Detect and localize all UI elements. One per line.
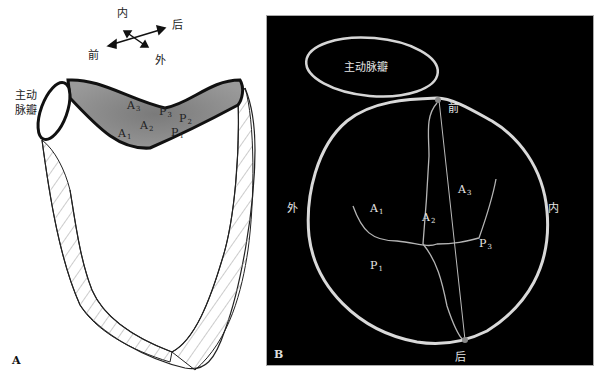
segment-a1-label: A1 <box>118 128 131 141</box>
segment-p3-label: P3 <box>159 106 172 119</box>
orientation-inner-label: 内 <box>548 203 559 214</box>
aortic-valve-label-line1: 主动 <box>15 90 37 101</box>
aortic-valve-label: 主动脉瓣 <box>344 62 388 73</box>
aortic-valve-ring <box>32 78 77 143</box>
orientation-posterior-label: 后 <box>172 20 183 31</box>
segment-a2-label: A2 <box>140 120 153 133</box>
segment-p3-label: P3 <box>479 238 492 251</box>
panel-a-schematic: 内 后 前 外 主动 脉瓣 A3 P3 P2 A2 A1 P1 A <box>0 0 265 370</box>
orientation-arrows <box>108 26 165 48</box>
mitral-leaflet <box>68 80 243 148</box>
segment-a1-label: A1 <box>370 203 383 216</box>
ap-diameter-line <box>439 100 465 340</box>
orientation-inner-label: 内 <box>117 8 128 19</box>
orientation-outer-label: 外 <box>155 55 166 66</box>
panel-b-letter: B <box>274 348 283 361</box>
panel-b-3d-reconstruction: 主动脉瓣 前 后 外 内 A1 A2 A3 P1 P3 B <box>267 16 593 365</box>
orientation-anterior-label: 前 <box>448 103 459 114</box>
segment-p1-label: P1 <box>370 260 383 273</box>
orientation-posterior-label: 后 <box>455 352 466 363</box>
panel-a-letter: A <box>12 354 21 367</box>
segment-a2-label: A2 <box>422 212 435 225</box>
segment-p1-label: P1 <box>171 127 184 140</box>
segment-p2-label: P2 <box>179 113 192 126</box>
segment-a3-label: A3 <box>127 100 140 113</box>
orientation-anterior-label: 前 <box>88 50 99 61</box>
orientation-outer-label: 外 <box>287 203 298 214</box>
aortic-valve-label-line2: 脉瓣 <box>15 105 37 116</box>
mitral-annulus-3d-drawing <box>267 16 593 365</box>
segment-a3-label: A3 <box>458 184 471 197</box>
heart-schematic-drawing <box>0 0 265 370</box>
